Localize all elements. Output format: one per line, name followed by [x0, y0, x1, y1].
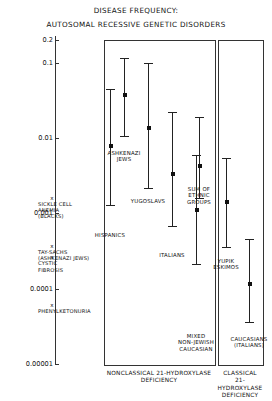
group-caption: CLASSICAL21-HYDROXYLASEDEFICIENCY	[218, 370, 263, 400]
data-point-marker	[123, 93, 127, 97]
y-tick-label: 0.01	[38, 134, 53, 142]
reference-marker-label: TAY-SACHS(ASHKENAZI JEWS)	[38, 249, 89, 261]
error-bar-cap-upper	[222, 158, 231, 159]
series-label: SUM OFETHNICGROUPS	[187, 186, 211, 205]
error-bar-cap-upper	[120, 58, 129, 59]
series-label: YUGOSLAVS	[131, 198, 165, 204]
series-label: CAUCASIANS(ITALIANS)	[230, 336, 267, 349]
data-point-marker	[198, 164, 202, 168]
error-bar-cap-upper	[106, 89, 115, 90]
series-label: YUPIKESKIMOS	[213, 258, 239, 271]
group-caption: NONCLASSICAL 21-HYDROXYLASEDEFICIENCY	[107, 370, 211, 385]
error-bar-cap-lower	[120, 136, 129, 137]
reference-marker-label: CYSTICFIBROSIS	[38, 260, 63, 272]
error-bar-cap-upper	[168, 112, 177, 113]
y-tick	[55, 289, 59, 290]
data-point-marker	[248, 282, 252, 286]
error-bar-cap-lower	[222, 247, 231, 248]
reference-marker-label: SICKLE CELLANEMIA(BLACKS)	[38, 201, 72, 220]
error-bar-cap-upper	[245, 239, 254, 240]
data-point-marker	[109, 144, 113, 148]
y-tick-label: 0.1	[43, 59, 54, 67]
error-bar-cap-lower	[106, 205, 115, 206]
chart-title-line2: AUTOSOMAL RECESSIVE GENETIC DISORDERS	[0, 20, 272, 29]
data-point-marker	[171, 172, 175, 176]
series-label: ITALIANS	[159, 252, 185, 258]
reference-marker-label: PHENYLKETONURIA	[38, 308, 91, 314]
error-bar	[249, 239, 250, 322]
y-tick-label: 0.00001	[26, 360, 53, 368]
chart-title-line1: DISEASE FREQUENCY:	[0, 6, 272, 15]
y-tick	[55, 364, 59, 365]
error-bar-cap-upper	[144, 63, 153, 64]
error-bar-cap-lower	[245, 322, 254, 323]
error-bar-cap-lower	[192, 264, 201, 265]
data-point-marker	[147, 126, 151, 130]
data-point-marker	[195, 208, 199, 212]
y-tick-label: 0.0001	[30, 285, 53, 293]
data-point-marker	[225, 200, 229, 204]
error-bar-cap-upper	[195, 117, 204, 118]
y-tick	[55, 40, 59, 41]
y-tick	[55, 63, 59, 64]
error-bar	[172, 112, 173, 226]
series-label: HISPANICS	[95, 232, 125, 238]
error-bar-cap-lower	[144, 188, 153, 189]
error-bar-cap-lower	[168, 226, 177, 227]
y-tick-label: 0.2	[43, 36, 54, 44]
series-label: MIXEDNON-JEWISHCAUCASIAN	[178, 333, 214, 352]
error-bar-cap-upper	[192, 155, 201, 156]
y-tick	[55, 138, 59, 139]
disease-frequency-chart: DISEASE FREQUENCY: AUTOSOMAL RECESSIVE G…	[0, 0, 272, 401]
series-label: ASHKENAZIJEWS	[108, 150, 141, 163]
error-bar	[124, 58, 125, 136]
